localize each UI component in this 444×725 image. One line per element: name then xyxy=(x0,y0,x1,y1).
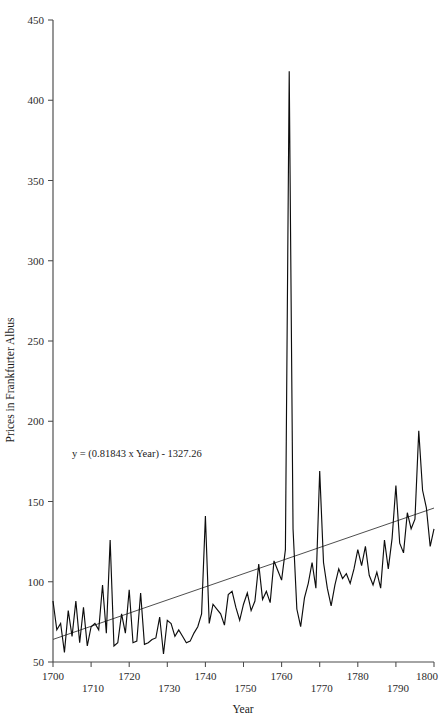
y-tick-label: 300 xyxy=(28,255,45,267)
y-axis-title: Prices in Frankfurter Albus xyxy=(4,317,16,442)
y-tick-label: 450 xyxy=(28,14,45,26)
x-tick-label: 1780 xyxy=(347,670,370,682)
y-tick-label: 350 xyxy=(28,175,45,187)
chart-figure: 50100150200250300350400450 1700171017201… xyxy=(0,0,444,725)
y-tick-label: 150 xyxy=(28,496,45,508)
x-tick-label: 1760 xyxy=(271,670,294,682)
price-time-series-chart: 50100150200250300350400450 1700171017201… xyxy=(0,0,444,725)
x-tick-label: 1730 xyxy=(158,682,181,694)
y-tick-label: 100 xyxy=(28,576,45,588)
x-tick-label: 1750 xyxy=(235,682,258,694)
y-tick-label: 200 xyxy=(28,415,45,427)
regression-equation: y = (0.81843 x Year) - 1327.26 xyxy=(72,448,202,460)
y-tick-label: 250 xyxy=(28,335,45,347)
y-tick-label: 50 xyxy=(33,656,45,668)
x-tick-label: 1770 xyxy=(311,682,334,694)
x-tick-label: 1790 xyxy=(387,682,410,694)
x-axis-title: Year xyxy=(232,703,253,715)
y-tick-label: 400 xyxy=(28,94,45,106)
annotation-group: y = (0.81843 x Year) - 1327.26 xyxy=(72,448,202,460)
x-tick-label: 1740 xyxy=(194,670,217,682)
x-tick-label: 1710 xyxy=(82,682,105,694)
x-tick-label: 1720 xyxy=(118,670,141,682)
x-tick-label: 1800 xyxy=(416,670,439,682)
x-tick-label: 1700 xyxy=(42,670,65,682)
